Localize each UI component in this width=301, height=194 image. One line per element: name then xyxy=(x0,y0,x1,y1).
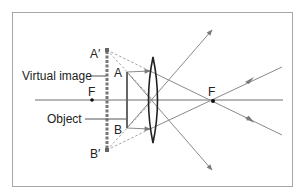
lens-diagram: A′ B′ A B F F Virtual image Object xyxy=(0,0,301,194)
focal-point-right xyxy=(211,99,215,103)
label-object: Object xyxy=(47,112,82,126)
label-a-prime: A′ xyxy=(90,47,101,61)
label-a: A xyxy=(114,66,122,80)
label-b: B xyxy=(114,123,122,137)
label-f-left: F xyxy=(88,85,95,99)
label-virtual-image: Virtual image xyxy=(22,69,92,83)
label-b-prime: B′ xyxy=(90,147,101,161)
label-f-right: F xyxy=(208,85,215,99)
